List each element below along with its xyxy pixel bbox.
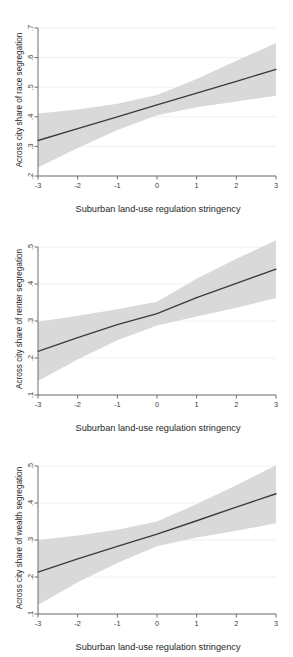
y-tick-label: .4 [26, 500, 35, 506]
y-tick-label: .4 [26, 281, 35, 287]
fitted-line-race [38, 69, 276, 140]
y-ticks-wealth: .1.2.3.4.5 [26, 463, 38, 617]
x-ticks-wealth: -3-2-10123 [35, 614, 278, 628]
x-tick-label: 1 [195, 619, 199, 628]
y-axis-title-renter: Across city share of renter segregation [15, 248, 24, 389]
ci-band-group-wealth [38, 465, 276, 605]
x-tick-label: -1 [114, 181, 121, 190]
chart-svg-wealth: -3-2-10123 .1.2.3.4.5 Suburban land-use … [0, 438, 293, 657]
y-tick-label: .3 [26, 537, 35, 543]
y-tick-label: .5 [26, 84, 35, 90]
panel-race-segregation: -3-2-10123 .2.3.4.5.6.7 Suburban land-us… [0, 0, 293, 219]
y-tick-label: .5 [26, 244, 35, 250]
x-tick-label: 1 [195, 400, 199, 409]
y-tick-label: .5 [26, 463, 35, 469]
chart-svg-race: -3-2-10123 .2.3.4.5.6.7 Suburban land-us… [0, 0, 293, 219]
x-tick-label: 0 [155, 619, 159, 628]
x-tick-label: -2 [74, 619, 81, 628]
confidence-band-wealth [38, 465, 276, 605]
x-tick-label: -3 [35, 400, 42, 409]
chart-svg-renter: -3-2-10123 .1.2.3.4.5 Suburban land-use … [0, 219, 293, 438]
x-tick-label: -1 [114, 619, 121, 628]
y-axis-title-wealth: Across city share of wealth segregation [15, 466, 24, 609]
y-tick-label: .4 [26, 114, 35, 120]
x-tick-label: -2 [74, 400, 81, 409]
y-tick-label: .2 [26, 355, 35, 361]
x-tick-label: 3 [274, 181, 278, 190]
y-tick-label: .6 [26, 55, 35, 61]
fit-line-group-race [38, 69, 276, 140]
x-tick-label: -2 [74, 181, 81, 190]
x-tick-label: -3 [35, 181, 42, 190]
x-axis-title-renter: Suburban land-use regulation stringency [76, 423, 241, 433]
y-axis-title-race: Across city share of race segregation [15, 32, 24, 167]
panel-renter-segregation: -3-2-10123 .1.2.3.4.5 Suburban land-use … [0, 219, 293, 438]
y-tick-label: .3 [26, 143, 35, 149]
x-tick-label: 3 [274, 619, 278, 628]
x-tick-label: 2 [234, 181, 238, 190]
ci-band-group-renter [38, 240, 276, 381]
x-tick-label: 0 [155, 400, 159, 409]
y-tick-label: .2 [26, 173, 35, 179]
x-axis-title-race: Suburban land-use regulation stringency [76, 204, 241, 214]
x-ticks-renter: -3-2-10123 [35, 395, 278, 409]
y-tick-label: .2 [26, 574, 35, 580]
y-tick-label: .7 [26, 25, 35, 31]
y-tick-label: .1 [26, 392, 35, 398]
figure-container: -3-2-10123 .2.3.4.5.6.7 Suburban land-us… [0, 0, 293, 657]
x-tick-label: 2 [234, 400, 238, 409]
panel-wealth-segregation: -3-2-10123 .1.2.3.4.5 Suburban land-use … [0, 438, 293, 657]
x-axis-title-wealth: Suburban land-use regulation stringency [76, 642, 241, 652]
y-ticks-renter: .1.2.3.4.5 [26, 244, 38, 398]
confidence-band-renter [38, 240, 276, 381]
y-tick-label: .3 [26, 318, 35, 324]
x-tick-label: 1 [195, 181, 199, 190]
x-tick-label: 2 [234, 619, 238, 628]
x-tick-label: 3 [274, 400, 278, 409]
y-tick-label: .1 [26, 611, 35, 617]
x-tick-label: 0 [155, 181, 159, 190]
y-ticks-race: .2.3.4.5.6.7 [26, 25, 38, 179]
x-ticks-race: -3-2-10123 [35, 176, 278, 190]
x-tick-label: -1 [114, 400, 121, 409]
x-tick-label: -3 [35, 619, 42, 628]
